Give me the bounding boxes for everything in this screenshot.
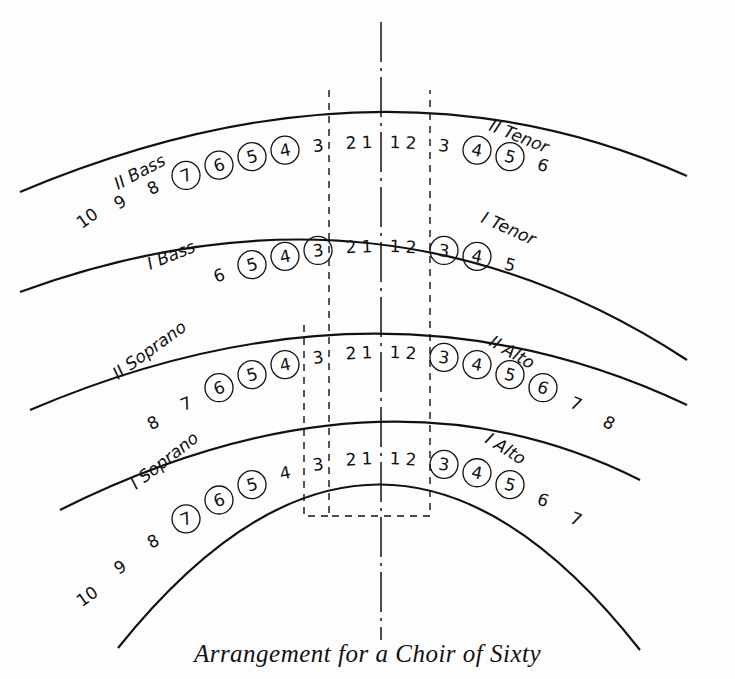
seat-number: 2 — [405, 237, 417, 258]
riser-arc-third — [20, 240, 687, 360]
seat-number: 1 — [389, 236, 400, 256]
seat-number: 6 — [535, 489, 552, 511]
seat-number: 1 — [389, 132, 400, 152]
seat-number: 5 — [502, 364, 518, 386]
seat-number: 2 — [405, 343, 417, 364]
seat-number: 1 — [389, 342, 400, 362]
seat-number: 5 — [502, 474, 518, 496]
seat-number: 5 — [244, 146, 260, 168]
seat-number: 5 — [502, 146, 518, 168]
seat-number: 2 — [345, 449, 357, 470]
choir-arrangement-diagram: 1234567891012345612345612345123456781234… — [0, 0, 735, 679]
seat-number: 7 — [177, 508, 195, 531]
seat-number: 10 — [72, 582, 101, 611]
seat-number: 1 — [361, 132, 372, 152]
seat-number: 2 — [405, 449, 417, 470]
seat-number: 3 — [437, 240, 450, 261]
seat-number: 10 — [72, 204, 101, 233]
seat-number: 7 — [177, 392, 195, 415]
seat-number: 9 — [110, 556, 130, 579]
seat-number: 1 — [361, 236, 372, 256]
diagram-caption: Arrangement for a Choir of Sixty — [0, 640, 735, 668]
seat-number: 6 — [211, 489, 228, 511]
seat-labels: 1234567891012345612345612345123456781234… — [72, 132, 618, 611]
seat-number: 8 — [600, 411, 619, 434]
section-label-right: II Tenor — [487, 115, 553, 157]
seat-number: 9 — [110, 191, 130, 214]
seat-number: 2 — [345, 237, 357, 258]
seat-number: 5 — [502, 254, 518, 276]
seat-number: 3 — [311, 454, 324, 475]
seat-number: 4 — [278, 462, 293, 484]
seat-number: 2 — [405, 132, 417, 153]
seat-number: 4 — [278, 245, 293, 267]
seat-number: 4 — [278, 354, 293, 376]
seat-number: 4 — [470, 462, 485, 484]
seat-number: 6 — [211, 376, 228, 398]
seat-number: 6 — [211, 264, 228, 286]
seat-number: 2 — [345, 343, 357, 364]
seat-number: 3 — [437, 135, 450, 156]
seat-number: 5 — [244, 364, 260, 386]
seat-number: 6 — [535, 376, 552, 398]
seat-number: 5 — [244, 474, 260, 496]
seat-number: 7 — [567, 392, 585, 415]
section-label-left: I Soprano — [126, 428, 202, 494]
seat-number: 5 — [244, 254, 260, 276]
seat-number: 2 — [345, 132, 357, 153]
seat-number: 8 — [144, 411, 163, 434]
seat-number: 3 — [311, 135, 324, 156]
section-label-left: I Bass — [144, 236, 198, 273]
seat-number: 8 — [144, 176, 163, 199]
seat-number: 7 — [177, 164, 195, 187]
seat-number: 3 — [437, 347, 450, 368]
section-labels: II BassII TenorI BassI TenorII SopranoII… — [109, 115, 553, 493]
seat-number: 8 — [144, 530, 163, 553]
seat-number: 6 — [535, 154, 552, 176]
seat-number: 3 — [437, 454, 450, 475]
seat-number: 1 — [361, 448, 372, 468]
section-label-right: I Tenor — [478, 207, 539, 249]
seat-number: 7 — [567, 508, 585, 531]
seat-number: 1 — [389, 448, 400, 468]
seat-number: 4 — [470, 139, 485, 161]
section-label-right: I Alto — [482, 428, 530, 468]
seat-number: 6 — [211, 154, 228, 176]
seat-number: 4 — [278, 139, 293, 161]
seat-number: 3 — [311, 347, 324, 368]
seat-number: 3 — [311, 240, 324, 261]
seat-number: 1 — [361, 342, 372, 362]
seat-number: 4 — [470, 354, 485, 376]
section-label-left: II Soprano — [109, 317, 190, 384]
